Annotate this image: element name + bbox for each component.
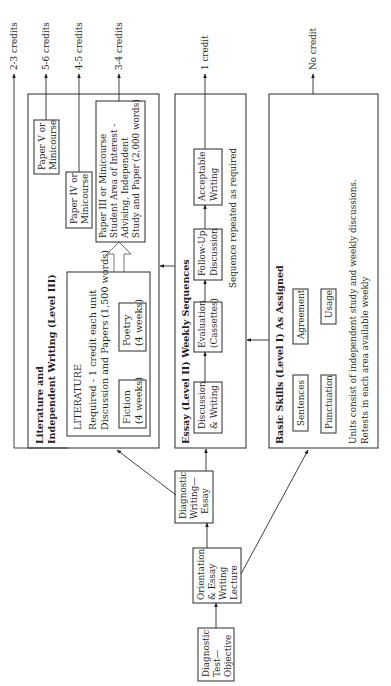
credit-label-1: 1 credit (200, 35, 210, 70)
unit-poetry-line2: (4 weeks) (133, 299, 144, 346)
skill-punctuation-label: Punctuation (324, 375, 334, 429)
credit-arrow-3-4: 3-4 credits (114, 22, 124, 101)
paper4-box: Paper IV or Minicourse (66, 172, 92, 228)
paper3-line2: Student Area of Interest - (109, 124, 119, 238)
paper5-line2: Minicourse (48, 120, 58, 170)
curriculum-flow-diagram: 2-3 credits 5-6 credits 4-5 credits 3-4 … (0, 0, 391, 686)
credit-arrow-5-6: 5-6 credits (41, 22, 51, 120)
diag-writing-line1: Diagnostic (178, 471, 188, 519)
paper5-line1: Paper V or (37, 122, 47, 170)
diag-writing-line2: Writing— (189, 477, 199, 519)
literature-desc-line1: Required - 1 credit each unit (87, 290, 98, 430)
credit-arrow-4-5: 4-5 credits (74, 22, 84, 172)
unit-poetry: Poetry (4 weeks) (119, 299, 146, 351)
literature-desc-line2: Discussion and Papers (1,500 words) (99, 250, 110, 430)
unit-fiction-line1: Fiction (121, 390, 132, 424)
diag-test-line2: Test— (212, 650, 222, 677)
step1-line2: & Writing (209, 385, 219, 429)
credit-label-none: No credit (308, 27, 318, 70)
orientation-line1: Orientation (196, 548, 206, 600)
step4-line1: Acceptable (197, 152, 207, 202)
skill-agreement: Agreement (293, 289, 308, 344)
skill-agreement-label: Agreement (296, 289, 306, 340)
step-follow-up: Follow-Up Discussion (194, 228, 222, 280)
level1-box: Basic Skills (Level I) As Assigned Sente… (269, 94, 378, 448)
level1-note-line1: Units consist of independent study and w… (348, 179, 358, 444)
literature-heading: LITERATURE (72, 364, 83, 430)
literature-box: LITERATURE Required - 1 credit each unit… (67, 250, 150, 436)
paper4-line1: Paper IV or (69, 172, 79, 224)
paper3-line3: Advising, Independent (120, 137, 130, 239)
hollow-arrow-icon (107, 242, 131, 272)
step3-line1: Follow-Up (197, 230, 207, 276)
paper3-line1: Paper III or Minicourse (98, 134, 108, 238)
step2-line2: (Cassettes) (209, 298, 219, 348)
node-diagnostic-writing: Diagnostic Writing— Essay (175, 471, 213, 523)
step4-line2: Writing (209, 167, 219, 201)
node-diagnostic-test: Diagnostic Test— Objective (198, 628, 234, 681)
credit-arrow-none: No credit (308, 27, 318, 94)
step3-line2: Discussion (209, 228, 219, 276)
step-discussion-writing: Discussion & Writing (194, 381, 222, 433)
credit-label-2-3: 2-3 credits (9, 22, 19, 70)
diag-writing-line3: Essay (200, 488, 210, 514)
node-orientation: Orientation & Essay Writing Lecture (193, 548, 241, 603)
orientation-line2: & Essay (207, 564, 217, 600)
unit-fiction: Fiction (4 weeks) (119, 377, 146, 428)
level1-title: Basic Skills (Level I) As Assigned (274, 265, 285, 444)
level3-title-line1: Literature and (34, 366, 45, 444)
orientation-line4: Lecture (229, 565, 239, 600)
level1-note-line2: Retests in each area available weekly (360, 276, 370, 444)
orientation-line3: Writing (218, 566, 228, 600)
paper3-box: Paper III or Minicourse Student Area of … (96, 99, 145, 242)
skill-punctuation: Punctuation (321, 375, 336, 433)
skill-usage: Usage (321, 289, 336, 324)
step-evaluation: Evaluation (Cassettes) (194, 298, 222, 352)
credit-label-4-5: 4-5 credits (74, 22, 84, 70)
level2-box: Essay (Level II) Weekly Sequences Discus… (175, 94, 246, 448)
step-acceptable-writing: Acceptable Writing (194, 149, 222, 205)
credit-label-5-6: 5-6 credits (41, 22, 51, 70)
step1-line1: Discussion (197, 381, 207, 429)
credit-arrow-1: 1 credit (200, 35, 210, 149)
diag-test-line1: Diagnostic (201, 629, 211, 677)
unit-fiction-line2: (4 weeks) (133, 377, 144, 424)
paper5-box: Paper V or Minicourse (34, 120, 59, 174)
level3-box: Literature and Independent Writing (Leve… (28, 94, 159, 448)
level3-title-line2: Independent Writing (Level III) (46, 274, 57, 444)
step2-line1: Evaluation (197, 300, 207, 348)
unit-poetry-line1: Poetry (121, 314, 132, 346)
paper4-line2: Minicourse (80, 174, 90, 224)
skill-sentences-label: Sentences (296, 380, 306, 426)
level2-note: Sequence repeated as required (228, 148, 238, 288)
skill-usage-label: Usage (324, 290, 334, 318)
credit-label-3-4: 3-4 credits (114, 22, 124, 70)
paper3-line4: Study and Paper (2,000 words) (131, 99, 141, 238)
diag-test-line3: Objective (223, 635, 233, 677)
level2-title: Essay (Level II) Weekly Sequences (180, 259, 191, 444)
skill-sentences: Sentences (293, 375, 308, 431)
